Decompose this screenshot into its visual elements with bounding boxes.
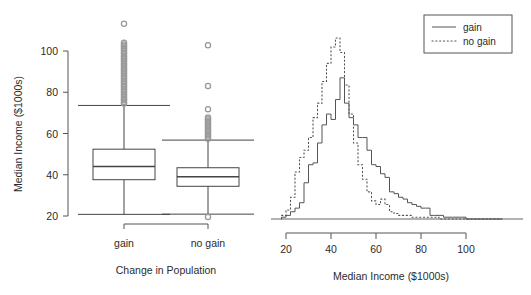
legend-label-gain: gain: [463, 22, 482, 33]
boxplot-panel: 100 80 60 40 20 Median Income ($1000s) g…: [0, 0, 266, 295]
x-axis-title: Change in Population: [116, 264, 217, 276]
outlier-point: [205, 83, 210, 88]
y-axis-ticks: [63, 51, 68, 216]
outlier-point: [121, 21, 126, 26]
category-label-gain: gain: [114, 237, 134, 249]
legend: gain no gain: [424, 15, 512, 53]
figure-container: 100 80 60 40 20 Median Income ($1000s) g…: [0, 0, 531, 295]
y-tick-label-60: 60: [46, 128, 58, 140]
series-line-gain: [282, 78, 503, 219]
y-tick-label-20: 20: [46, 210, 58, 222]
outlier-point: [205, 107, 210, 112]
boxplot-svg: 100 80 60 40 20 Median Income ($1000s) g…: [0, 0, 266, 295]
legend-box: [424, 15, 512, 53]
y-axis: 100 80 60 40 20: [40, 45, 68, 222]
box-iqr: [93, 149, 155, 180]
y-tick-label-40: 40: [46, 169, 58, 181]
x-tick-label-80: 80: [415, 243, 427, 255]
outlier-point: [205, 43, 210, 48]
boxplot-gain: [78, 21, 170, 214]
y-axis-title: Median Income ($1000s): [12, 76, 24, 192]
legend-label-no-gain: no gain: [463, 36, 496, 47]
category-label-no-gain: no gain: [191, 237, 226, 249]
x-tick-label-60: 60: [370, 243, 382, 255]
density-svg: 20 40 60 80 100 Median Income ($1000s) g…: [265, 0, 531, 295]
y-tick-label-80: 80: [46, 86, 58, 98]
y-tick-label-100: 100: [40, 45, 58, 57]
x-axis-bracket: [124, 224, 208, 229]
boxplot-no-gain: [162, 43, 254, 220]
x-tick-label-100: 100: [457, 243, 475, 255]
x-tick-label-40: 40: [325, 243, 337, 255]
density-panel: 20 40 60 80 100 Median Income ($1000s) g…: [265, 0, 531, 295]
x-axis: 20 40 60 80 100: [280, 233, 475, 255]
outlier-point: [205, 214, 210, 219]
x-axis-title: Median Income ($1000s): [333, 270, 449, 282]
x-tick-label-20: 20: [280, 243, 292, 255]
